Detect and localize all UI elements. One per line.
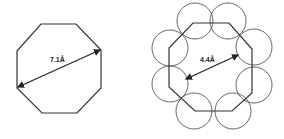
- octagon-with-circles: 4.4Å: [152, 3, 272, 129]
- diameter-label: 4.4Å: [200, 55, 215, 63]
- diameter-label: 7.1Å: [50, 55, 65, 63]
- atom-circle: [236, 67, 272, 103]
- atom-circle: [152, 30, 188, 66]
- diagram-canvas: 7.1Å 4.4Å: [0, 0, 284, 139]
- atom-circles: [152, 3, 272, 129]
- atom-circle: [152, 66, 188, 102]
- atom-circle: [236, 29, 272, 65]
- atom-circle: [210, 3, 246, 39]
- octagon-single: 7.1Å: [17, 24, 101, 113]
